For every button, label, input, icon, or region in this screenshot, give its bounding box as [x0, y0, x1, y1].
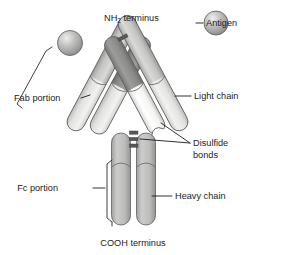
- disulfide-bond-2: [130, 138, 139, 141]
- antigen-sphere-bound-left: [58, 31, 83, 56]
- disulfide-bonds-group: [130, 131, 139, 147]
- cooh-terminus-label: COOH terminus: [100, 238, 166, 248]
- fc-stem-left-heavy-chain: [112, 133, 131, 225]
- heavy-chain-label: Heavy chain: [175, 191, 226, 201]
- antibody-diagram-figure: NH2 terminus Antigen Light chain Disulfi…: [0, 0, 281, 255]
- nh2-terminus-label: NH2 terminus: [104, 13, 159, 24]
- disulfide-bonds-label-line1: Disulfide: [193, 138, 228, 148]
- antibody-structure-svg: NH2 terminus Antigen Light chain Disulfi…: [0, 0, 281, 255]
- light-chain-label: Light chain: [194, 91, 238, 101]
- disulfide-bond-3: [130, 144, 139, 147]
- fab-portion-label: Fab portion: [14, 93, 60, 103]
- antigen-label: Antigen: [206, 18, 237, 28]
- disulfide-bonds-label-line2: bonds: [193, 150, 218, 160]
- disulfide-bond-1: [130, 131, 139, 134]
- fc-stem-right-heavy-chain: [137, 133, 156, 225]
- fc-portion-label: Fc portion: [17, 183, 58, 193]
